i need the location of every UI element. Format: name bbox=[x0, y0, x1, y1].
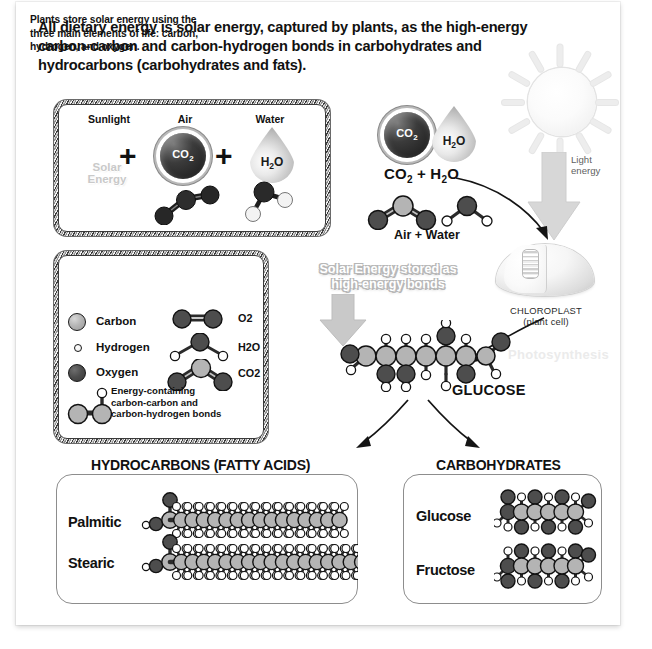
co2-molecule-dark-icon bbox=[151, 183, 227, 225]
co2-text: CO bbox=[384, 165, 407, 182]
legend-h2o-label: H2O bbox=[238, 341, 260, 353]
sun-ray bbox=[576, 132, 591, 154]
legend-co2-label: CO2 bbox=[238, 367, 260, 379]
chloroplast-icon bbox=[496, 244, 594, 300]
reactants-to-chloroplast-arrow-icon bbox=[452, 170, 562, 250]
fructose-bottom-molecule-icon bbox=[494, 540, 602, 598]
palmitic-acid-molecule-icon bbox=[140, 492, 350, 540]
water-drop-mid-icon: H2O bbox=[432, 106, 476, 162]
sun-ray bbox=[529, 132, 544, 154]
legend-bond-note: Energy-containing carbon-carbon and carb… bbox=[111, 385, 229, 420]
sun-ray bbox=[590, 118, 612, 133]
glucose-label: GLUCOSE bbox=[452, 382, 526, 398]
solar-energy-label: SolarEnergy bbox=[76, 162, 138, 185]
legend-oxygen-swatch bbox=[68, 364, 86, 382]
plus-h-text: + H bbox=[413, 165, 442, 182]
legend-o2-label: O2 bbox=[238, 312, 252, 324]
co2-sphere-icon: CO2 bbox=[160, 133, 206, 179]
sun-icon bbox=[510, 50, 614, 154]
legend-hydrogen-swatch bbox=[74, 344, 82, 352]
co2-sphere-text: CO bbox=[172, 148, 189, 160]
palmitic-label: Palmitic bbox=[68, 514, 121, 530]
sun-ray bbox=[529, 51, 544, 73]
air-water-label: Air + Water bbox=[394, 228, 460, 242]
water-drop-o: O bbox=[274, 155, 283, 181]
glucose-bottom-label: Glucose bbox=[416, 508, 471, 524]
sun-ray bbox=[509, 71, 531, 86]
glucose-to-hydrocarbons-arrow-icon bbox=[346, 398, 416, 458]
water-label: Water bbox=[239, 113, 301, 125]
co2-sphere-sub: 2 bbox=[189, 155, 194, 164]
sun-ray bbox=[502, 100, 524, 105]
legend-carbon-swatch bbox=[68, 313, 86, 331]
h2o-molecule-icon bbox=[245, 179, 301, 225]
carbohydrates-heading: CARBOHYDRATES bbox=[436, 457, 561, 473]
legend-o2-molecule-icon bbox=[170, 308, 230, 334]
stearic-label: Stearic bbox=[68, 555, 114, 571]
hydrocarbons-heading: HYDROCARBONS (FATTY ACIDS) bbox=[91, 457, 310, 473]
legend-oxygen-label: Oxygen bbox=[96, 366, 138, 378]
glucose-bottom-molecule-icon bbox=[494, 486, 602, 542]
diagram-page: All dietary energy is solar energy, capt… bbox=[16, 2, 620, 625]
sun-ray bbox=[576, 51, 591, 73]
air-label: Air bbox=[155, 113, 215, 125]
legend-intro-text: Plants store solar energy using the thre… bbox=[30, 13, 208, 54]
stearic-acid-molecule-icon bbox=[140, 534, 358, 582]
glucose-to-carbohydrates-arrow-icon bbox=[422, 398, 492, 458]
sun-ray bbox=[596, 100, 618, 105]
co2-plus-h2o-label: CO2 + H2O bbox=[384, 165, 459, 185]
plus-sign-2: + bbox=[215, 141, 233, 171]
co2-sphere-mid-icon: CO2 bbox=[384, 112, 430, 158]
solar-energy-stored-label: Solar Energy stored as high-energy bonds bbox=[312, 262, 464, 292]
sun-ray bbox=[509, 118, 531, 133]
legend-hydrogen-label: Hydrogen bbox=[96, 341, 150, 353]
thylakoid-stack-icon bbox=[523, 250, 538, 278]
sun-ray bbox=[590, 71, 612, 86]
fructose-bottom-label: Fructose bbox=[416, 562, 475, 578]
water-drop-icon: H2O bbox=[250, 127, 294, 183]
sun-ray bbox=[558, 45, 563, 67]
sunlight-label: Sunlight bbox=[71, 113, 147, 125]
water-drop-h: H bbox=[261, 155, 270, 181]
legend-carbon-label: Carbon bbox=[96, 315, 136, 327]
sun-disc bbox=[528, 68, 596, 136]
